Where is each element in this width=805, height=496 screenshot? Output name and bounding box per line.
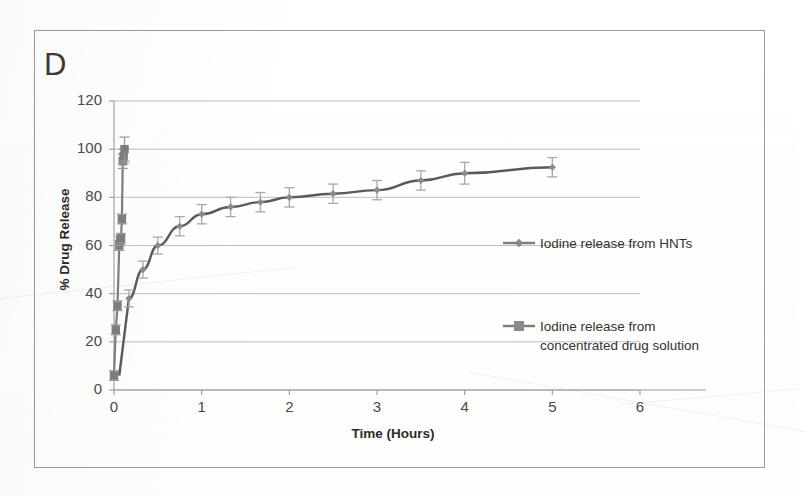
legend-entry-1-label: Iodine release from	[540, 318, 656, 335]
data-point-marker	[227, 203, 234, 210]
x-tick-label: 4	[450, 398, 480, 415]
legend-markers	[503, 239, 535, 331]
y-tick-label: 100	[60, 139, 102, 156]
data-point-marker	[119, 152, 127, 160]
x-tick-label: 3	[362, 398, 392, 415]
y-tick-label: 0	[60, 380, 102, 397]
data-point-marker	[257, 199, 264, 206]
series-line	[129, 167, 552, 298]
x-tick-label: 2	[274, 398, 304, 415]
x-axis-label: Time (Hours)	[233, 426, 553, 441]
data-point-marker	[549, 164, 556, 171]
y-tick-label: 40	[60, 284, 102, 301]
data-point-marker	[117, 234, 125, 242]
data-point-marker	[286, 194, 293, 201]
y-tick-label: 120	[60, 91, 102, 108]
data-point-marker	[120, 145, 128, 153]
x-tick-label: 6	[625, 398, 655, 415]
data-point-marker	[176, 223, 183, 230]
data-point-marker	[373, 187, 380, 194]
data-point-marker	[110, 371, 118, 379]
data-point-marker	[118, 215, 126, 223]
y-tick-label: 60	[60, 236, 102, 253]
data-point-marker	[112, 326, 120, 334]
series-concentrated-drug-solution	[109, 137, 130, 380]
legend-entry-0-label: Iodine release from HNTs	[540, 235, 692, 252]
data-point-marker	[461, 170, 468, 177]
data-point-marker	[113, 302, 121, 310]
data-point-marker	[198, 211, 205, 218]
x-tick-label: 5	[537, 398, 567, 415]
data-point-marker	[330, 190, 337, 197]
y-tick-label: 80	[60, 187, 102, 204]
data-point-marker	[417, 177, 424, 184]
x-tick-label: 1	[187, 398, 217, 415]
y-tick-label: 20	[60, 332, 102, 349]
x-tick-label: 0	[99, 398, 129, 415]
data-point-marker	[514, 321, 524, 331]
legend-entry-1-label-line2: concentrated drug solution	[540, 337, 699, 354]
series-hnts	[119, 158, 557, 376]
